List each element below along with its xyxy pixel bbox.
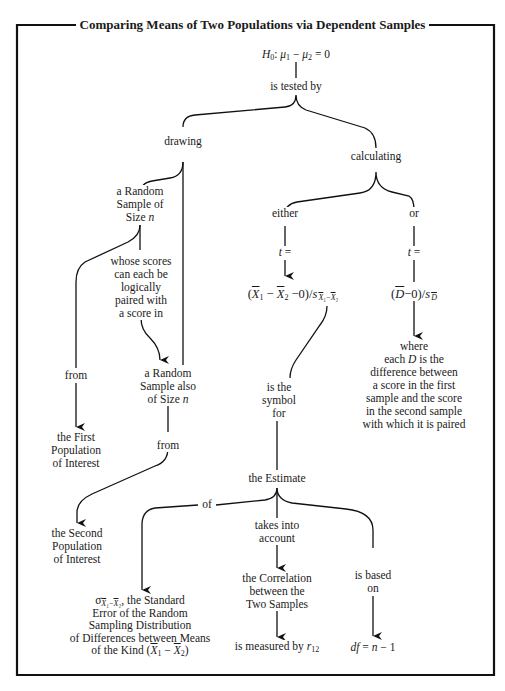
node-the-estimate: the Estimate xyxy=(248,472,305,485)
node-either: either xyxy=(272,207,298,220)
node-t-eq-2: t = xyxy=(408,246,421,259)
node-formula-dbar: (D−0)/s D xyxy=(391,288,437,301)
node-from-1: from xyxy=(65,369,87,382)
node-random-sample-also: a Random Sample also of Size n xyxy=(140,367,196,406)
node-df: df = n − 1 xyxy=(351,641,396,654)
node-is-the-symbol-for: is the symbol for xyxy=(262,381,296,420)
node-second-population: the Second Population of Interest xyxy=(52,527,103,566)
node-whose-scores: whose scores can each be logically paire… xyxy=(111,255,172,320)
node-takes-into-account: takes into account xyxy=(255,519,299,545)
node-or: or xyxy=(409,207,419,220)
node-of: of xyxy=(202,498,212,511)
node-formula-xbar: (X1 − X2 −0)/s X₁−X₂ xyxy=(248,288,339,301)
node-from-2: from xyxy=(157,439,179,452)
node-calculating: calculating xyxy=(351,150,401,163)
node-is-tested-by: is tested by xyxy=(270,80,322,93)
node-first-population: the First Population of Interest xyxy=(51,431,101,470)
node-h0: H0: μ1 − μ2 = 0 xyxy=(262,48,330,61)
node-standard-error: σX₁−X₂, the Standard Error of the Random… xyxy=(70,594,211,657)
node-where-d: where each D is the difference between a… xyxy=(363,340,466,431)
node-drawing: drawing xyxy=(164,135,202,148)
node-the-correlation: the Correlation between the Two Samples xyxy=(242,572,311,611)
node-t-eq-1: t = xyxy=(279,246,292,259)
node-is-measured-by: is measured by r12 xyxy=(235,640,319,653)
diagram-title: Comparing Means of Two Populations via D… xyxy=(0,17,505,33)
node-random-sample: a Random Sample of Size n xyxy=(117,185,164,224)
node-is-based-on: is based on xyxy=(355,569,392,595)
